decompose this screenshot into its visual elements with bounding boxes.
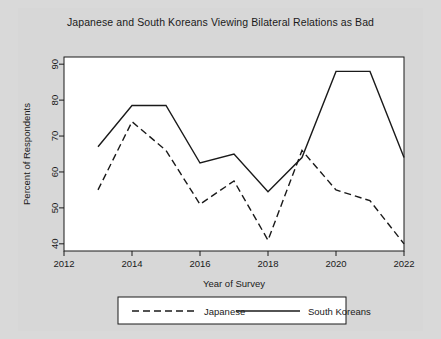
y-tick-label: 60 <box>49 167 60 178</box>
plot-area: 405060708090 201220142016201820202022 Pe… <box>0 0 441 339</box>
x-tick-label: 2020 <box>325 258 346 269</box>
x-axis-ticks: 201220142016201820202022 <box>53 251 414 269</box>
y-axis-label: Percent of Respondents <box>21 103 32 205</box>
x-tick-label: 2022 <box>393 258 414 269</box>
legend: JapaneseSouth Koreans <box>118 297 371 324</box>
x-axis-label: Year of Survey <box>203 278 265 289</box>
line-chart: 405060708090 201220142016201820202022 Pe… <box>0 0 441 339</box>
chart-page: Japanese and South Koreans Viewing Bilat… <box>0 0 441 339</box>
x-tick-label: 2012 <box>53 258 74 269</box>
y-tick-label: 80 <box>49 95 60 106</box>
y-tick-label: 40 <box>49 239 60 250</box>
x-tick-label: 2018 <box>257 258 278 269</box>
y-tick-label: 90 <box>49 59 60 70</box>
x-tick-label: 2016 <box>189 258 210 269</box>
y-tick-label: 70 <box>49 131 60 142</box>
y-tick-label: 50 <box>49 203 60 214</box>
x-tick-label: 2014 <box>121 258 142 269</box>
y-axis-ticks: 405060708090 <box>49 59 64 249</box>
legend-label-south-koreans: South Koreans <box>308 306 371 317</box>
